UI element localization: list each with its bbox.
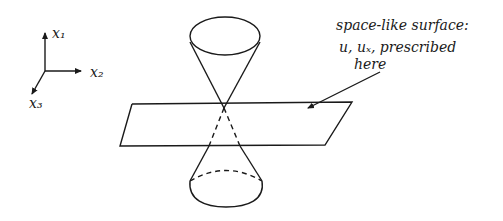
lower-cone-rim-visible: [190, 181, 263, 207]
coordinate-axes: [32, 33, 81, 94]
x3-axis: [32, 71, 45, 94]
lower-cone-rim-hidden: [190, 171, 262, 182]
lower-cone-left-hidden: [209, 108, 224, 146]
spacelike-plane: [120, 102, 352, 146]
annotation-line-1: space-like surface:: [336, 17, 469, 33]
plane-outline: [120, 102, 352, 146]
upper-cone-rim: [190, 17, 260, 55]
annotation-line-2: u, uₓ, prescribed: [339, 39, 456, 55]
diagram-canvas: x₁ x₂ x₃ space-like surface: u, uₓ, pres…: [0, 0, 503, 221]
lower-cone-right-hidden: [224, 108, 240, 146]
lower-cone: [190, 108, 263, 207]
annotation-line-3: here: [354, 56, 386, 72]
x1-axis-label: x₁: [52, 25, 66, 41]
upper-cone-right-edge: [224, 42, 260, 108]
upper-cone: [190, 17, 260, 108]
x2-axis-label: x₂: [90, 64, 104, 80]
x3-axis-label: x₃: [29, 95, 43, 111]
